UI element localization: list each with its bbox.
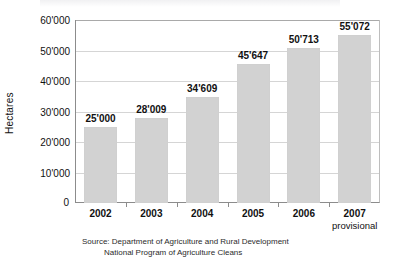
y-axis-zero-label: 0: [55, 197, 69, 208]
x-axis-tick-mark: [228, 203, 229, 207]
x-axis-category-label: 2003: [126, 208, 177, 219]
source-note-line-2: National Program of Agriculture Cleans: [82, 248, 342, 259]
x-axis-category-sublabel: provisional: [329, 220, 380, 231]
plot-area: [75, 20, 380, 203]
x-axis-tick-mark: [329, 203, 330, 207]
gridline: [76, 112, 379, 113]
x-axis-tick-mark: [177, 203, 178, 207]
x-axis-category-year: 2006: [293, 208, 315, 219]
y-axis-tick-label: 40'000: [10, 76, 70, 87]
x-axis-category-label: 2005: [228, 208, 279, 219]
x-axis-category-year: 2004: [191, 208, 213, 219]
x-axis-category-year: 2005: [242, 208, 264, 219]
gridline: [76, 142, 379, 143]
x-axis-tick-mark: [126, 203, 127, 207]
x-axis-category-label: 2006: [278, 208, 329, 219]
x-axis-category-year: 2003: [140, 208, 162, 219]
x-axis-category-label: 2004: [177, 208, 228, 219]
y-axis-tick-label: 20'000: [10, 137, 70, 148]
source-note: Source: Department of Agriculture and Ru…: [82, 237, 342, 258]
cropped-title-sliver: [40, 0, 340, 7]
y-axis-tick-label: 60'000: [10, 15, 70, 26]
gridline: [76, 81, 379, 82]
gridline: [76, 173, 379, 174]
y-axis-tick-label: 10'000: [10, 167, 70, 178]
gridline: [76, 51, 379, 52]
x-axis-category-label: 2007provisional: [329, 208, 380, 231]
y-axis-tick-label: 30'000: [10, 106, 70, 117]
x-axis-category-year: 2002: [89, 208, 111, 219]
x-axis-category-year: 2007: [344, 208, 366, 219]
y-axis-tick-label: 50'000: [10, 45, 70, 56]
bar-chart-figure: Hectares 25'00028'00934'60945'64750'7135…: [0, 0, 398, 264]
source-note-line-1: Source: Department of Agriculture and Ru…: [82, 237, 342, 248]
gridline: [76, 20, 379, 21]
x-axis-tick-mark: [278, 203, 279, 207]
x-axis-category-label: 2002: [75, 208, 126, 219]
